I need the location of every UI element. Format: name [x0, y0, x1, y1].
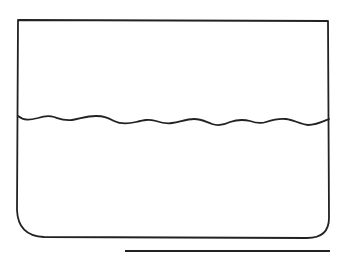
diagram-canvas: [0, 0, 351, 274]
liquid-surface-line: [18, 116, 329, 125]
container-outline: [17, 20, 329, 238]
